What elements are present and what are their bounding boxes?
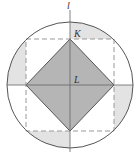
label-l: l — [67, 0, 70, 11]
shaded-region-left — [5, 39, 26, 85]
label-l-center: L — [73, 74, 80, 85]
geometry-diagram: l K L — [0, 0, 140, 156]
shaded-region-bottom-left — [10, 131, 70, 153]
label-k: K — [73, 28, 82, 39]
